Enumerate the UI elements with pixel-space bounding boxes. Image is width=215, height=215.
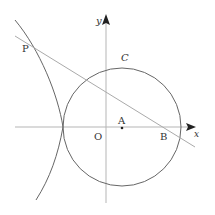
y-axis-label: y [95, 15, 102, 26]
point-b-label: B [160, 131, 167, 142]
x-axis-label: x [194, 129, 199, 139]
diagram-canvas: y x O C A B P [0, 0, 215, 215]
line-pb [15, 36, 195, 147]
point-a [121, 127, 124, 130]
circle-label: C [121, 52, 129, 63]
origin-label: O [94, 131, 102, 142]
point-p-label: P [22, 43, 29, 54]
point-a-label: A [117, 115, 126, 126]
